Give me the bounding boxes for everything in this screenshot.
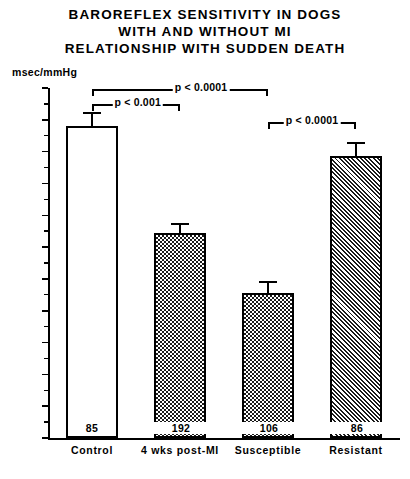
bar-n-value: 85 [66, 422, 118, 434]
chart-title: BAROREFLEX SENSITIVITY IN DOGS WITH AND … [0, 6, 410, 57]
significance-bracket: p < 0.0001 [92, 89, 268, 105]
y-axis-tick-major [42, 278, 48, 280]
y-axis-tick-minor [44, 326, 48, 327]
y-axis-tick-major [42, 119, 48, 121]
y-axis-tick-major [42, 310, 48, 312]
bar-control [66, 126, 118, 438]
y-axis-tick-minor [44, 358, 48, 359]
error-bar-cap [347, 142, 365, 144]
plot-area: 024681012141618202285Control1924 wks pos… [48, 88, 400, 440]
bracket-tick-left [92, 104, 94, 111]
y-axis-line [48, 88, 50, 440]
bracket-tick-right [178, 104, 180, 111]
y-axis-tick-major [42, 87, 48, 89]
y-axis-tick-major [42, 437, 48, 439]
bar-n-value: 106 [242, 422, 296, 434]
bar-susceptible [242, 293, 294, 438]
y-axis-tick-major [42, 151, 48, 153]
title-line-2: WITH AND WITHOUT MI [0, 23, 410, 40]
y-axis-tick-minor [44, 167, 48, 168]
y-axis-tick-major [42, 183, 48, 185]
y-axis-tick-minor [44, 421, 48, 422]
bracket-tick-left [268, 122, 270, 129]
y-axis-tick-minor [44, 230, 48, 231]
title-line-3: RELATIONSHIP WITH SUDDEN DEATH [0, 40, 410, 57]
bracket-tick-right [354, 122, 356, 129]
error-bar-cap [171, 223, 189, 225]
y-axis-tick-minor [44, 390, 48, 391]
y-axis-tick-minor [44, 294, 48, 295]
y-axis-unit-label: msec/mmHg [12, 66, 77, 78]
y-axis-tick-major [42, 215, 48, 217]
significance-label: p < 0.0001 [284, 114, 341, 126]
bar-4-wks-post-mi [154, 233, 206, 438]
error-bar-cap [259, 281, 277, 283]
bar-resistant [330, 156, 382, 438]
y-axis-tick-minor [44, 262, 48, 263]
y-axis-tick-minor [44, 135, 48, 136]
chart-figure: BAROREFLEX SENSITIVITY IN DOGS WITH AND … [0, 0, 410, 479]
x-axis-label-resistant: Resistant [276, 444, 410, 456]
title-line-1: BAROREFLEX SENSITIVITY IN DOGS [0, 6, 410, 23]
y-axis-tick-major [42, 342, 48, 344]
bar-n-value: 86 [330, 422, 384, 434]
y-axis-tick-major [42, 246, 48, 248]
significance-label: p < 0.0001 [173, 81, 230, 93]
significance-bracket: p < 0.0001 [268, 122, 356, 138]
x-axis-line [48, 438, 400, 440]
bar-n-value: 192 [154, 422, 208, 434]
y-axis-tick-minor [44, 199, 48, 200]
y-axis-tick-major [42, 374, 48, 376]
y-axis-tick-major [42, 405, 48, 407]
bracket-tick-right [266, 89, 268, 96]
error-bar-stem [355, 142, 357, 156]
y-axis-tick-minor [44, 103, 48, 104]
bracket-tick-left [92, 89, 94, 96]
significance-bracket: p < 0.001 [92, 104, 180, 120]
